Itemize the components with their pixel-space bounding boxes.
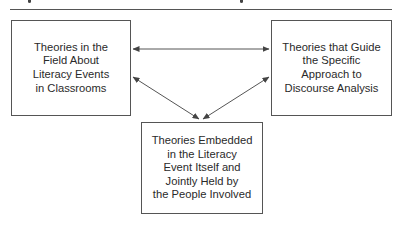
box-discourse-analysis-theories-label: Theories that Guide the Specific Approac… [282,41,380,95]
box-embedded-theories-label: Theories Embedded in the Literacy Event … [152,134,253,202]
box-field-theories: Theories in the Field About Literacy Eve… [11,20,131,116]
box-discourse-analysis-theories: Theories that Guide the Specific Approac… [271,20,392,116]
arrow-right-bottom [203,77,269,119]
box-field-theories-label: Theories in the Field About Literacy Eve… [33,41,109,95]
box-embedded-theories: Theories Embedded in the Literacy Event … [141,122,263,214]
arrow-left-bottom [133,77,199,119]
